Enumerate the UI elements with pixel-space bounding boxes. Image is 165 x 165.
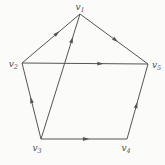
arrowhead-v3-v4 — [83, 137, 89, 141]
vertex-label-v5: v5 — [152, 60, 161, 72]
edge-v2-v1 — [22, 14, 80, 63]
edge-v4-v5 — [127, 64, 148, 139]
arrowhead-v4-v5 — [134, 102, 138, 109]
vertex-label-v3: v3 — [32, 143, 41, 155]
arrowhead-v3-v1 — [69, 37, 73, 44]
vertex-label-v1: v1 — [75, 2, 84, 14]
vertex-label-v2: v2 — [9, 59, 18, 71]
edge-v2-v5 — [22, 63, 148, 64]
arrowhead-v3-v2 — [30, 97, 34, 104]
graph-canvas: v1v2v3v4v5 — [0, 0, 165, 165]
edge-v3-v1 — [41, 14, 80, 139]
vertex-label-v4: v4 — [121, 143, 130, 155]
graph-diagram: v1v2v3v4v5 — [0, 0, 165, 165]
arrowhead-v2-v5 — [97, 62, 103, 66]
